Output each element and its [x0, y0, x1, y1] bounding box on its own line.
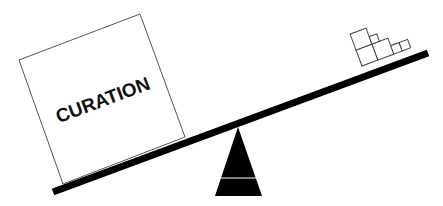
small-boxes-stack [350, 16, 411, 66]
seesaw-diagram: CURATION [0, 0, 443, 206]
fulcrum [215, 127, 262, 196]
curation-box: CURATION [19, 14, 185, 184]
